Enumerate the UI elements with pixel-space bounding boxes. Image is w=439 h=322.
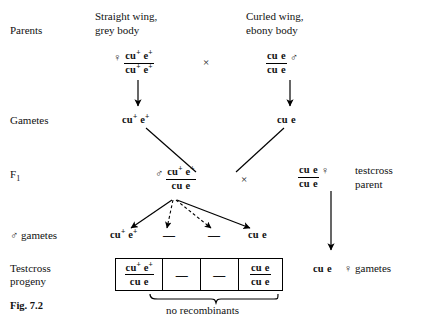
genotype-numerator: cue — [250, 262, 271, 276]
allele-e-plus-superscript: + — [190, 164, 194, 173]
allele-e: e — [265, 276, 270, 287]
allele-e: e — [313, 164, 318, 175]
genotype-fraction-f1: cu+e+ cue — [166, 166, 195, 192]
testcross-parent-label-line1: testcross — [355, 164, 393, 178]
allele-cu-plus-superscript: + — [121, 227, 125, 236]
female-gametes-row: cue ♀ gametes — [313, 262, 391, 276]
progeny-cell-parental-1: cu+e+ cue — [116, 259, 163, 290]
genotype-denominator: cue — [298, 178, 319, 191]
allele-cu: cu — [172, 180, 183, 191]
female-symbol-icon: ♀ — [321, 164, 329, 176]
cross-symbol-testcross: × — [241, 173, 247, 185]
male-symbol-icon: ♂ — [155, 167, 163, 179]
allele-e: e — [291, 114, 296, 125]
arrow-f1-to-gamete-recombinant-1 — [167, 200, 173, 228]
progeny-cell-parental-2: cue cue — [239, 259, 282, 290]
male-gamete-class-parental-1: cu+e+ — [110, 229, 137, 241]
genotype-fraction-progeny-1: cu+e+ cue — [125, 262, 154, 288]
arrow-f1-to-gamete-parental-1 — [131, 200, 172, 228]
male-gamete-class-recombinant-1: — — [163, 229, 175, 241]
figure-caption: Fig. 7.2 — [10, 300, 43, 312]
f1-genotype: ♂ cu+e+ cue — [155, 166, 196, 192]
allele-cu: cu — [251, 276, 262, 287]
allele-cu: cu — [248, 229, 259, 240]
female-gametes-label: gametes — [355, 262, 391, 276]
allele-cu-plus-superscript: + — [133, 112, 137, 121]
genotype-fraction-progeny-4: cue cue — [250, 262, 271, 288]
gamete-maternal: cu+e+ — [122, 114, 149, 126]
female-gamete-genotype: cue — [313, 263, 332, 275]
genotype-denominator: cue — [166, 180, 195, 193]
allele-e-plus-superscript: + — [149, 259, 153, 268]
gamete-paternal: cue — [277, 114, 296, 126]
allele-cu: cu — [277, 114, 288, 125]
progeny-dash: — — [213, 269, 225, 281]
genotype-numerator: cu+e+ — [166, 166, 195, 180]
allele-cu: cu — [299, 164, 310, 175]
arrow-f1-to-gamete-recombinant-2 — [176, 200, 211, 228]
allele-e: e — [327, 263, 332, 274]
testcross-parent-genotype: cue cue ♀ — [298, 164, 329, 190]
allele-cu: cu — [313, 263, 324, 274]
line-paternal-gamete-to-f1 — [236, 128, 284, 172]
allele-cu: cu — [251, 262, 262, 273]
progeny-cell-recombinant-2: — — [201, 259, 239, 290]
figure-canvas: Parents Gametes F1 ♂ gametes Testcross p… — [0, 0, 439, 322]
no-recombinants-label: no recombinants — [166, 304, 239, 316]
genotype-denominator: cue — [125, 275, 154, 288]
testcross-parent-label-line2: parent — [355, 178, 393, 192]
genotype-numerator: cue — [298, 164, 319, 178]
progeny-cell-recombinant-1: — — [163, 259, 201, 290]
allele-cu-plus: cu — [110, 229, 121, 240]
allele-cu-plus: cu — [167, 166, 178, 177]
testcross-progeny-box: cu+e+ cue — — cue cue — [115, 258, 283, 291]
testcross-parent-label: testcross parent — [355, 164, 393, 191]
female-symbol-icon: ♀ — [344, 262, 352, 274]
allele-cu-plus-superscript: + — [136, 259, 140, 268]
male-gamete-class-parental-2: cue — [248, 229, 267, 241]
allele-cu-plus: cu — [126, 262, 137, 273]
allele-e: e — [262, 229, 267, 240]
genotype-numerator: cu+e+ — [125, 262, 154, 276]
genotype-denominator: cue — [250, 275, 271, 288]
genotype-fraction-testcross-parent: cue cue — [298, 164, 319, 190]
allele-e: e — [185, 180, 190, 191]
allele-e: e — [313, 178, 318, 189]
brace-no-recombinants — [150, 294, 278, 303]
allele-cu-plus: cu — [122, 114, 133, 125]
allele-e: e — [144, 276, 149, 287]
allele-e-plus-superscript: + — [145, 112, 149, 121]
arrow-f1-to-gamete-parental-2 — [177, 200, 250, 228]
allele-cu: cu — [130, 276, 141, 287]
allele-cu-plus-superscript: + — [178, 164, 182, 173]
allele-cu: cu — [299, 178, 310, 189]
allele-e: e — [265, 262, 270, 273]
male-gamete-class-recombinant-2: — — [208, 229, 220, 241]
allele-e-plus-superscript: + — [133, 227, 137, 236]
progeny-dash: — — [176, 269, 188, 281]
